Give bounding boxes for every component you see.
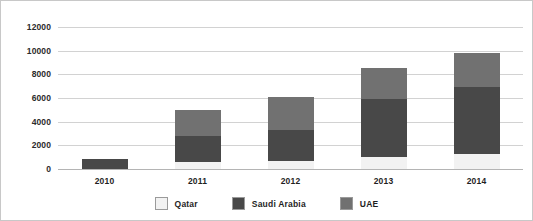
legend-label: UAE <box>360 199 379 209</box>
y-axis-tick-label: 12000 <box>27 22 51 32</box>
stacked-bar[interactable] <box>361 68 407 169</box>
bar-segment-saudi-arabia[interactable] <box>175 136 221 162</box>
legend-item[interactable]: Qatar <box>155 197 198 210</box>
bar-segment-uae[interactable] <box>361 68 407 99</box>
bar-segment-saudi-arabia[interactable] <box>361 99 407 157</box>
legend-label: Saudi Arabia <box>252 199 306 209</box>
y-axis-tick-label: 4000 <box>32 117 51 127</box>
bar-segment-saudi-arabia[interactable] <box>82 159 128 169</box>
stacked-bar[interactable] <box>82 159 128 169</box>
bar-segment-qatar[interactable] <box>268 161 314 169</box>
bar-segment-uae[interactable] <box>268 97 314 130</box>
x-axis-tick-label: 2014 <box>467 176 487 186</box>
bar-segment-saudi-arabia[interactable] <box>454 87 500 154</box>
y-axis-tick-label: 8000 <box>32 69 51 79</box>
plot-area: 020004000600080001000012000 201020112012… <box>58 27 523 169</box>
x-axis-tick-label: 2013 <box>374 176 394 186</box>
legend-swatch-icon <box>155 197 168 210</box>
y-axis-tick-label: 2000 <box>32 140 51 150</box>
chart-legend: QatarSaudi ArabiaUAE <box>1 197 532 210</box>
bar-group: 2010 <box>58 27 151 169</box>
bar-segment-saudi-arabia[interactable] <box>268 130 314 161</box>
legend-swatch-icon <box>340 197 353 210</box>
stacked-bar[interactable] <box>454 53 500 169</box>
legend-label: Qatar <box>175 199 198 209</box>
stacked-bar[interactable] <box>175 110 221 169</box>
x-axis-tick-label: 2010 <box>95 176 115 186</box>
bar-group: 2012 <box>244 27 337 169</box>
gridline: 0 <box>58 169 523 170</box>
x-axis-tick-label: 2011 <box>188 176 207 186</box>
bar-segment-uae[interactable] <box>454 53 500 87</box>
legend-item[interactable]: UAE <box>340 197 379 210</box>
legend-swatch-icon <box>232 197 245 210</box>
bar-group: 2013 <box>337 27 430 169</box>
x-axis-tick-label: 2012 <box>281 176 301 186</box>
y-axis-tick-label: 0 <box>46 164 51 174</box>
chart-container: 020004000600080001000012000 201020112012… <box>0 0 533 221</box>
bar-group: 2011 <box>151 27 244 169</box>
bar-segment-qatar[interactable] <box>454 154 500 169</box>
legend-item[interactable]: Saudi Arabia <box>232 197 306 210</box>
bar-segment-qatar[interactable] <box>361 157 407 169</box>
bar-segment-qatar[interactable] <box>175 162 221 169</box>
y-axis-tick-label: 10000 <box>27 46 51 56</box>
bar-group: 2014 <box>430 27 523 169</box>
stacked-bar[interactable] <box>268 97 314 169</box>
bar-segment-uae[interactable] <box>175 110 221 135</box>
y-axis-tick-label: 6000 <box>32 93 51 103</box>
